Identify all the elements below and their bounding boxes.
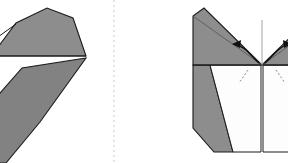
- right-panel: [193, 8, 288, 152]
- left-upper-flap: [0, 8, 86, 56]
- top-band-right: [262, 8, 288, 65]
- left-lower-flap: [0, 58, 86, 163]
- diagram-canvas: [0, 0, 288, 163]
- origami-diagram: [0, 0, 288, 163]
- under-flap-right: [263, 65, 288, 152]
- left-panel: [0, 8, 86, 163]
